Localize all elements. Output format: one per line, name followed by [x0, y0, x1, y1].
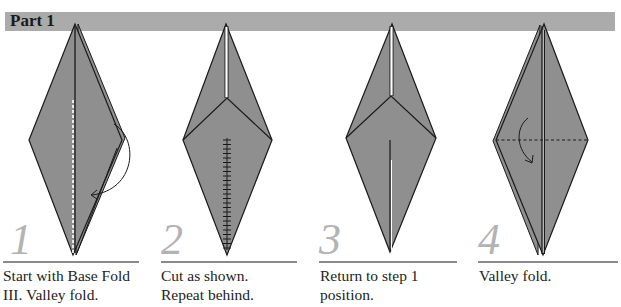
- step-1-number: 1: [10, 218, 32, 262]
- step-4-caption: Valley fold.: [479, 266, 621, 285]
- caption-line: Cut as shown.: [161, 266, 311, 285]
- step-3-divider: [319, 261, 457, 263]
- caption-line: III. Valley fold.: [3, 285, 153, 304]
- caption-line: position.: [320, 285, 470, 304]
- step-4-number: 4: [478, 218, 500, 262]
- step-4-divider: [478, 261, 618, 263]
- step-3-number: 3: [319, 218, 341, 262]
- step-4-diagram: [493, 24, 588, 255]
- step-2-divider: [161, 261, 297, 263]
- caption-line: Return to step 1: [320, 266, 470, 285]
- step-3-caption: Return to step 1 position.: [320, 266, 470, 304]
- step-1-caption: Start with Base Fold III. Valley fold.: [3, 266, 153, 304]
- step-1-divider: [3, 261, 139, 263]
- step-1-diagram: [29, 24, 130, 255]
- step-2-diagram: [183, 24, 272, 255]
- step-3-diagram: [346, 24, 436, 252]
- caption-line: Repeat behind.: [161, 285, 311, 304]
- caption-line: Start with Base Fold: [3, 266, 153, 285]
- caption-line: Valley fold.: [479, 266, 621, 285]
- step-2-caption: Cut as shown. Repeat behind.: [161, 266, 311, 304]
- step-2-number: 2: [161, 218, 183, 262]
